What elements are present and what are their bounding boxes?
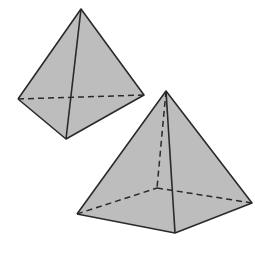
diagram-canvas bbox=[0, 0, 255, 258]
tetrahedron-fill bbox=[18, 9, 144, 139]
tetrahedron bbox=[18, 9, 144, 139]
